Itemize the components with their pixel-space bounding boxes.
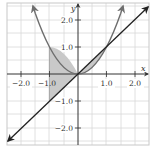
x-tick-label: −1.0 [38,79,56,88]
y-tick-label: −1.0 [55,97,73,106]
parabola-curve-right [78,6,123,74]
y-tick-label: 1.0 [61,43,73,52]
function-plot: −2.0 −1.0 1.0 2.0 2.0 1.0 −1.0 −2.0 x y [0,0,152,149]
y-axis-label: y [70,4,76,13]
x-axis-label: x [141,64,146,73]
x-tick-label: 1.0 [101,79,113,88]
x-tick-label: 2.0 [129,79,141,88]
x-tick-label: −2.0 [12,79,30,88]
y-tick-label: 2.0 [61,16,73,25]
y-tick-label: −2.0 [55,124,73,133]
